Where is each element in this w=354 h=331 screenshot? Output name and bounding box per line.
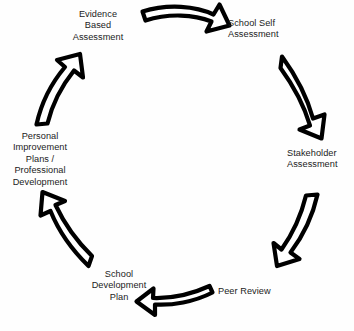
arrow-lower-left-icon xyxy=(41,192,93,266)
stage-label-peer-review: Peer Review xyxy=(218,286,292,297)
stage-label-personal-improvement-plans: Personal Improvement Plans / Professiona… xyxy=(2,131,78,188)
arrow-upper-left-icon xyxy=(37,54,84,125)
stage-label-stakeholder-assessment: Stakeholder Assessment xyxy=(287,148,353,171)
cycle-diagram: Evidence Based Assessment School Self As… xyxy=(0,0,354,331)
stage-label-evidence-based-assessment: Evidence Based Assessment xyxy=(58,9,138,43)
arrow-upper-right-icon xyxy=(281,57,325,139)
arrow-lower-right-icon xyxy=(274,195,318,267)
stage-label-school-development-plan: School Development Plan xyxy=(78,269,160,303)
arrow-top-icon xyxy=(143,5,230,32)
stage-label-school-self-assessment: School Self Assessment xyxy=(228,18,320,41)
